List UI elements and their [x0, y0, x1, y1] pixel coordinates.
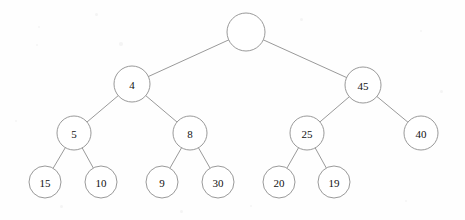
tree-node[interactable]: 4 — [114, 66, 150, 102]
node-label: 30 — [213, 177, 225, 189]
node-label: 25 — [302, 128, 314, 140]
node-label: 45 — [358, 80, 370, 92]
tree-node[interactable]: 30 — [202, 166, 234, 198]
tree-node[interactable]: 40 — [404, 116, 438, 150]
tree-node[interactable]: 9 — [146, 166, 178, 198]
tree-edge — [146, 96, 177, 122]
tree-edge — [53, 148, 65, 169]
binary-tree-graphic: 44558254015109302019 — [0, 0, 465, 220]
tree-edge — [170, 148, 182, 168]
tree-edge — [377, 96, 408, 122]
tree-node[interactable]: 15 — [29, 166, 61, 198]
tree-node[interactable]: 45 — [345, 67, 381, 103]
edge-layer — [53, 40, 408, 168]
node-label: 15 — [40, 177, 52, 189]
node-label: 8 — [187, 128, 193, 140]
tree-node[interactable]: 5 — [57, 116, 91, 150]
node-label: 4 — [129, 79, 135, 91]
tree-edge — [315, 148, 326, 168]
node-label: 20 — [274, 177, 286, 189]
tree-edge — [198, 148, 210, 168]
tree-node[interactable]: 8 — [173, 116, 207, 150]
node-label: 40 — [416, 128, 428, 140]
tree-node[interactable] — [227, 13, 265, 51]
tree-diagram-canvas: 44558254015109302019 — [0, 0, 465, 220]
node-layer: 44558254015109302019 — [29, 13, 438, 198]
tree-edge — [287, 148, 299, 168]
tree-node[interactable]: 19 — [318, 166, 350, 198]
node-label: 19 — [329, 177, 341, 189]
node-circle[interactable] — [227, 13, 265, 51]
tree-edge — [263, 40, 346, 78]
tree-node[interactable]: 20 — [263, 166, 295, 198]
node-label: 5 — [71, 128, 77, 140]
node-label: 9 — [159, 177, 165, 189]
tree-edge — [320, 97, 349, 122]
tree-edge — [82, 148, 93, 168]
tree-node[interactable]: 10 — [85, 166, 117, 198]
tree-edge — [148, 40, 228, 77]
tree-edge — [87, 96, 118, 122]
tree-node[interactable]: 25 — [290, 116, 324, 150]
node-label: 10 — [96, 177, 108, 189]
